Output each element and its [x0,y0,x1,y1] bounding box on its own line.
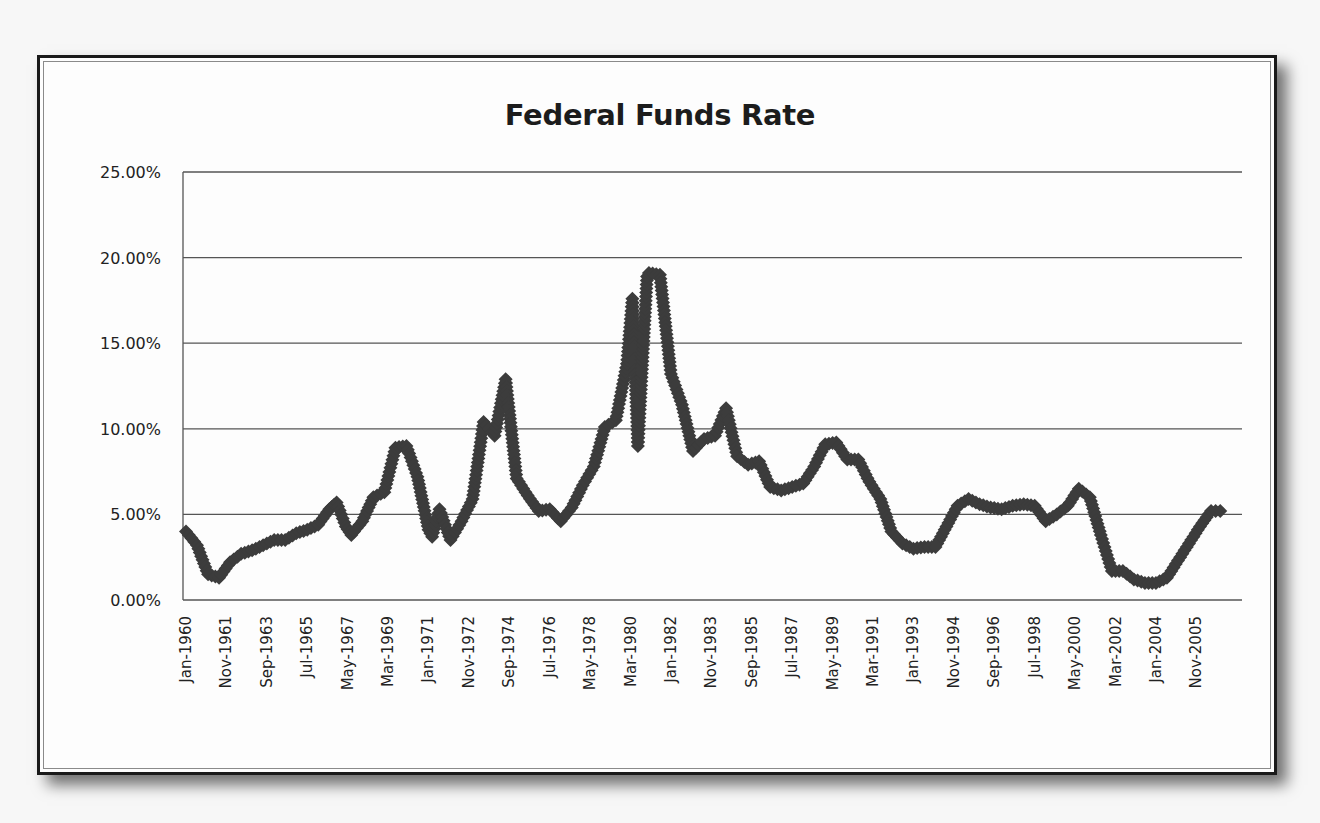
x-tick-label: Jan-1982 [662,616,680,684]
x-tick-label: Mar-2002 [1107,616,1125,687]
x-tick-label: Nov-2005 [1187,616,1205,688]
x-tick-label: Jan-1960 [177,616,195,684]
x-axis: Jan-1960Nov-1961Sep-1963Jul-1965May-1967… [177,616,1205,690]
x-tick-label: Sep-1985 [743,616,761,688]
y-tick-label: 20.00% [100,249,161,268]
x-tick-label: Jan-1993 [904,616,922,684]
x-tick-label: Jul-1965 [298,616,316,679]
y-tick-label: 10.00% [100,420,161,439]
x-tick-label: Nov-1972 [460,616,478,688]
x-tick-label: Jul-1998 [1026,616,1044,679]
x-tick-label: Nov-1961 [217,616,235,688]
x-tick-label: Jul-1987 [783,616,801,679]
x-tick-label: Jul-1976 [541,616,559,679]
x-tick-label: May-1978 [581,616,599,690]
x-tick-label: Jan-2004 [1147,616,1165,684]
x-tick-label: Sep-1974 [500,616,518,688]
x-tick-label: Sep-1996 [985,616,1003,688]
x-tick-label: Mar-1980 [622,616,640,687]
x-tick-label: Nov-1994 [945,616,963,688]
x-tick-label: Jan-1971 [419,616,437,684]
x-tick-label: Mar-1969 [379,616,397,687]
chart-plot: 0.00%5.00%10.00%15.00%20.00%25.00% Jan-1… [0,0,1320,823]
x-tick-label: Nov-1983 [702,616,720,688]
y-tick-label: 5.00% [110,505,161,524]
y-tick-label: 15.00% [100,334,161,353]
y-tick-label: 0.00% [110,591,161,610]
gridlines [183,172,1242,600]
x-tick-label: Sep-1963 [258,616,276,688]
x-tick-label: Mar-1991 [864,616,882,687]
data-series [179,266,1227,590]
series-line [186,273,1220,583]
x-tick-label: May-1967 [339,616,357,690]
x-tick-label: May-1989 [824,616,842,690]
x-tick-label: May-2000 [1066,616,1084,690]
y-axis: 0.00%5.00%10.00%15.00%20.00%25.00% [100,163,161,610]
y-tick-label: 25.00% [100,163,161,182]
